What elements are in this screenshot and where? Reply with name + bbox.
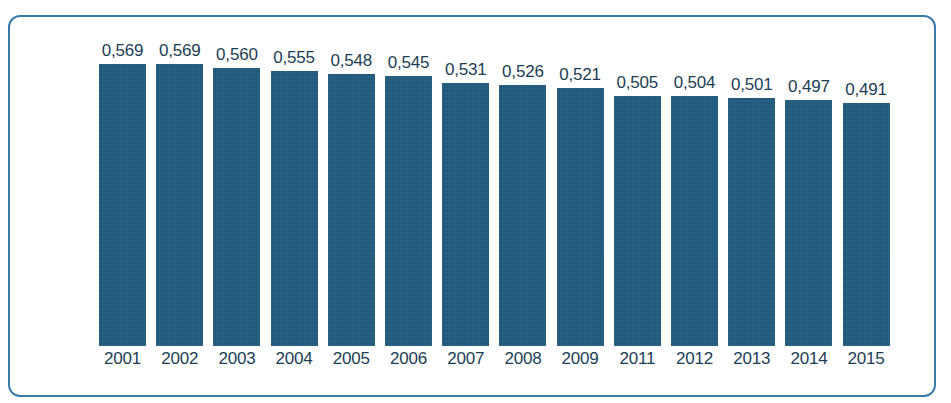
bar-value-label: 0,505 [617,73,659,93]
bar-group: 0,5042012 [671,15,718,395]
x-axis-tick-label: 2001 [104,349,141,369]
bar-rect [499,85,546,346]
bar-rect [785,100,832,346]
bar-value-label: 0,531 [445,60,487,80]
bar-value-label: 0,521 [559,65,601,85]
bar-value-label: 0,491 [845,80,887,100]
x-axis-tick-label: 2014 [790,349,827,369]
bar-group: 0,5482005 [328,15,375,395]
bar-group: 0,5312007 [442,15,489,395]
bar-group: 0,5212009 [557,15,604,395]
bar-value-label: 0,504 [674,73,716,93]
x-axis-tick-label: 2003 [218,349,255,369]
bar-chart-plot-area: 0,56920010,56920020,56020030,55520040,54… [10,17,934,395]
bar-group: 0,5452006 [385,15,432,395]
bar-value-label: 0,548 [331,51,373,71]
bar-group: 0,5552004 [271,15,318,395]
bar-group: 0,5012013 [728,15,775,395]
bar-group: 0,5052011 [614,15,661,395]
bar-rect [843,103,890,346]
bar-group: 0,5262008 [499,15,546,395]
bar-group: 0,5692002 [156,15,203,395]
bar-rect [213,68,260,346]
bar-group: 0,4912015 [843,15,890,395]
x-axis-tick-label: 2015 [848,349,885,369]
bar-rect [385,76,432,346]
bar-value-label: 0,501 [731,75,773,95]
bar-value-label: 0,545 [388,53,430,73]
bar-group: 0,5692001 [99,15,146,395]
bar-rect [614,96,661,346]
bar-value-label: 0,497 [788,77,830,97]
bar-rect [557,88,604,346]
bar-group: 0,5602003 [213,15,260,395]
x-axis-tick-label: 2009 [562,349,599,369]
bar-value-label: 0,555 [273,48,315,68]
x-axis-tick-label: 2013 [733,349,770,369]
bar-rect [328,74,375,346]
bar-rect [728,98,775,346]
x-axis-tick-label: 2007 [447,349,484,369]
bar-value-label: 0,526 [502,62,544,82]
x-axis-tick-label: 2011 [619,349,655,369]
bar-rect [156,64,203,346]
x-axis-tick-label: 2004 [276,349,313,369]
x-axis-tick-label: 2006 [390,349,427,369]
bar-rect [442,83,489,346]
x-axis-tick-label: 2012 [676,349,713,369]
bar-value-label: 0,569 [159,41,201,61]
x-axis-tick-label: 2008 [504,349,541,369]
bar-rect [271,71,318,346]
x-axis-tick-label: 2002 [161,349,198,369]
bar-value-label: 0,560 [216,45,258,65]
x-axis-tick-label: 2005 [333,349,370,369]
bar-rect [99,64,146,346]
bar-value-label: 0,569 [102,41,144,61]
bar-rect [671,96,718,346]
bar-group: 0,4972014 [785,15,832,395]
chart-frame: 0,56920010,56920020,56020030,55520040,54… [8,15,936,397]
cut-off-title [14,0,934,4]
